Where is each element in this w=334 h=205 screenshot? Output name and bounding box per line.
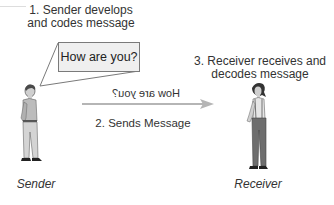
speech-bubble-text: How are you? (60, 50, 137, 64)
mirrored-message-text: How are you? (112, 87, 180, 99)
step-2-text: 2. Sends Message (95, 117, 190, 129)
sender-caption: Sender (10, 177, 62, 191)
diagram-graphics (0, 0, 334, 205)
step-3-title: 3. Receiver receives and decodes message (186, 55, 334, 81)
receiver-label: Receiver (234, 177, 281, 191)
step-2-label: 2. Sends Message (86, 117, 200, 129)
receiver-caption: Receiver (228, 177, 288, 191)
sender-figure-icon (21, 85, 42, 162)
receiver-figure-icon (247, 83, 268, 169)
step-3-line-2: decodes message (186, 68, 334, 81)
arrow-right-icon (82, 99, 214, 109)
sender-label: Sender (17, 177, 56, 191)
transmitted-message-mirrored: How are you? (96, 87, 196, 99)
speech-bubble: How are you? (58, 42, 140, 72)
